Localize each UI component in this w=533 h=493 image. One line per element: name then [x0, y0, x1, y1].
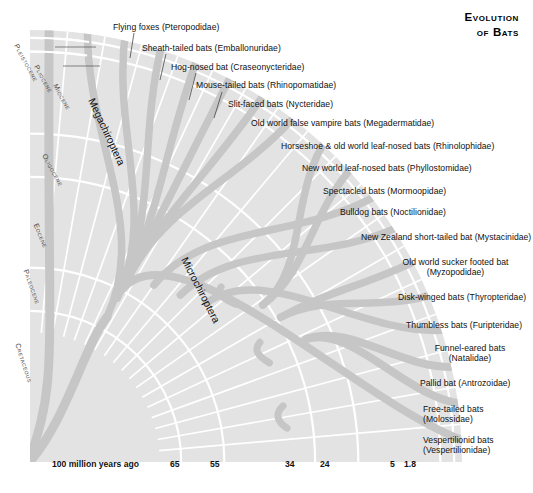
taxon-label-emballonuridae: Sheath-tailed bats (Emballonuridae): [142, 43, 281, 53]
axis-tick-1-8: 1.8: [404, 459, 416, 469]
taxon-label-vespertilionidae: Vespertilionid bats (Vespertilionidae): [423, 435, 531, 455]
taxon-label-natalidae: Funnel-eared bats (Natalidae): [412, 343, 528, 363]
taxon-label-rhinolophidae: Horseshoe & old world leaf-nosed bats (R…: [281, 141, 494, 151]
taxon-label-rhinopomatidae: Mouse-tailed bats (Rhinopomatidae): [196, 80, 336, 90]
axis-origin-label: 100 million years ago: [52, 459, 139, 469]
taxon-label-noctilionidae: Bulldog bats (Noctilionidae): [340, 207, 446, 217]
taxon-label-antrozoidae: Pallid bat (Antrozoidae): [420, 378, 511, 388]
taxon-label-mystacinidae: New Zealand short-tailed bat (Mystacinid…: [361, 232, 531, 242]
axis-tick-24: 24: [320, 459, 330, 469]
taxon-label-craseonycteridae: Hog-nosed bat (Craseonycteridae): [171, 62, 304, 72]
taxon-label-thyropteridae: Disk-winged bats (Thyropteridae): [398, 292, 526, 302]
title-line-1: Evolution: [379, 10, 519, 25]
taxon-label-molossidae: Free-tailed bats (Molossidae): [423, 404, 528, 424]
title-line-2: of Bats: [379, 25, 519, 40]
page-title: Evolution of Bats: [379, 10, 519, 40]
taxon-label-phyllostomidae: New world leaf-nosed bats (Phyllostomida…: [302, 163, 472, 173]
axis-tick-65: 65: [170, 459, 180, 469]
taxon-label-mormoopidae: Spectacled bats (Mormoopidae): [323, 186, 446, 196]
taxon-label-pteropodidae: Flying foxes (Pteropodidae): [113, 22, 219, 32]
taxon-label-myzopodidae: Old world sucker footed bat (Myzopodidae…: [383, 257, 528, 277]
axis-tick-34: 34: [285, 459, 295, 469]
axis-tick-5: 5: [390, 459, 395, 469]
taxon-label-nycteridae: Slit-faced bats (Nycteridae): [228, 99, 333, 109]
evolution-of-bats-figure: Evolution of Bats Flying foxes (Pteropod…: [0, 0, 533, 493]
taxon-label-furipteridae: Thumbless bats (Furipteridae): [406, 320, 522, 330]
taxon-label-megadermatidae: Old world false vampire bats (Megadermat…: [251, 118, 434, 128]
axis-tick-55: 55: [210, 459, 220, 469]
